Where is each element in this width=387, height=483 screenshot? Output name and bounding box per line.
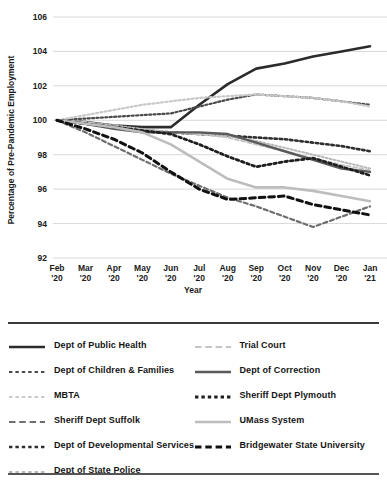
- legend-swatch-icon: [8, 414, 46, 426]
- svg-text:Aug: Aug: [219, 263, 236, 273]
- chart-legend: Dept of Public HealthDept of Children & …: [0, 322, 387, 483]
- legend-item-sheriff-dept-suffolk[interactable]: Sheriff Dept Suffolk: [8, 407, 194, 432]
- y-tick-92: 92: [38, 253, 48, 263]
- legend-swatch-icon: [194, 389, 232, 401]
- y-tick-96: 96: [38, 184, 48, 194]
- legend-swatch-icon: [8, 439, 46, 451]
- y-tick-104: 104: [33, 46, 47, 56]
- legend-item-label: Trial Court: [240, 340, 286, 350]
- y-axis-tick-labels: 92949698100102104106: [33, 12, 47, 263]
- svg-text:'20: '20: [108, 273, 120, 283]
- svg-text:'20: '20: [80, 273, 92, 283]
- svg-text:'20: '20: [51, 273, 63, 283]
- legend-swatch-icon: [194, 414, 232, 426]
- x-tick-7: Sep'20: [248, 263, 264, 283]
- x-tick-4: Jun'20: [163, 263, 178, 283]
- series-line-7: [57, 120, 370, 172]
- legend-bottom-divider: [8, 473, 379, 475]
- y-axis-title: Percentage of Pre-Pandemic Employment: [6, 56, 16, 225]
- svg-text:Nov: Nov: [305, 263, 321, 273]
- svg-text:'21: '21: [364, 273, 376, 283]
- legend-item-mbta[interactable]: MBTA: [8, 382, 194, 407]
- legend-item-dept-of-developmental-services[interactable]: Dept of Developmental Services: [8, 432, 194, 457]
- x-tick-1: Mar'20: [78, 263, 94, 283]
- x-tick-0: Feb'20: [49, 263, 64, 283]
- legend-item-dept-of-correction[interactable]: Dept of Correction: [194, 357, 380, 382]
- legend-item-label: Bridgewater State University: [240, 440, 365, 450]
- y-tick-100: 100: [33, 115, 47, 125]
- x-tick-9: Nov'20: [305, 263, 321, 283]
- svg-text:Jan: Jan: [363, 263, 378, 273]
- legend-item-sheriff-dept-plymouth[interactable]: Sheriff Dept Plymouth: [194, 382, 380, 407]
- legend-item-label: Sheriff Dept Plymouth: [240, 390, 337, 400]
- series-lines: [57, 46, 370, 227]
- svg-text:'20: '20: [336, 273, 348, 283]
- legend-column-right: Trial CourtDept of CorrectionSheriff Dep…: [194, 332, 380, 482]
- line-chart-svg: 92949698100102104106 Feb'20Mar'20Apr'20M…: [0, 0, 387, 300]
- x-axis-tick-labels: Feb'20Mar'20Apr'20May'20Jun'20Jul'20Aug'…: [49, 263, 377, 283]
- legend-item-label: MBTA: [54, 390, 80, 400]
- legend-swatch-icon: [194, 364, 232, 376]
- svg-text:'20: '20: [194, 273, 206, 283]
- legend-swatch-icon: [194, 439, 232, 451]
- legend-item-umass-system[interactable]: UMass System: [194, 407, 380, 432]
- legend-item-dept-of-children-families[interactable]: Dept of Children & Families: [8, 357, 194, 382]
- svg-text:Oct: Oct: [278, 263, 292, 273]
- svg-text:Apr: Apr: [107, 263, 122, 273]
- svg-text:Dec: Dec: [334, 263, 350, 273]
- legend-swatch-icon: [8, 339, 46, 351]
- legend-item-dept-of-public-health[interactable]: Dept of Public Health: [8, 332, 194, 357]
- x-tick-8: Oct'20: [278, 263, 292, 283]
- legend-item-label: Dept of Public Health: [54, 340, 147, 350]
- svg-text:Feb: Feb: [49, 263, 64, 273]
- svg-text:Sep: Sep: [248, 263, 264, 273]
- svg-text:Jul: Jul: [193, 263, 205, 273]
- svg-text:Mar: Mar: [78, 263, 94, 273]
- legend-item-label: Dept of Children & Families: [54, 365, 174, 375]
- series-line-0: [57, 46, 370, 127]
- y-tick-98: 98: [38, 150, 48, 160]
- legend-item-trial-court[interactable]: Trial Court: [194, 332, 380, 357]
- series-line-8: [57, 120, 370, 175]
- svg-text:'20: '20: [279, 273, 291, 283]
- legend-swatch-icon: [8, 364, 46, 376]
- svg-text:'20: '20: [250, 273, 262, 283]
- x-tick-2: Apr'20: [107, 263, 122, 283]
- x-tick-5: Jul'20: [193, 263, 205, 283]
- legend-item-label: UMass System: [240, 415, 305, 425]
- svg-text:Jun: Jun: [163, 263, 178, 273]
- legend-top-divider: [8, 322, 379, 324]
- svg-text:'20: '20: [165, 273, 177, 283]
- chart-root: 92949698100102104106 Feb'20Mar'20Apr'20M…: [0, 0, 387, 483]
- x-tick-11: Jan'21: [363, 263, 378, 283]
- legend-item-label: Sheriff Dept Suffolk: [54, 415, 140, 425]
- svg-text:'20: '20: [307, 273, 319, 283]
- y-tick-106: 106: [33, 12, 47, 22]
- x-tick-3: May'20: [134, 263, 151, 283]
- x-axis-title: Year: [184, 285, 203, 295]
- svg-text:May: May: [134, 263, 151, 273]
- x-tick-10: Dec'20: [334, 263, 350, 283]
- y-tick-94: 94: [38, 219, 48, 229]
- x-tick-6: Aug'20: [219, 263, 236, 283]
- plot-area: 92949698100102104106 Feb'20Mar'20Apr'20M…: [0, 0, 387, 300]
- legend-swatch-icon: [8, 389, 46, 401]
- legend-item-label: Dept of Correction: [240, 365, 321, 375]
- svg-text:'20: '20: [137, 273, 149, 283]
- legend-column-left: Dept of Public HealthDept of Children & …: [8, 332, 194, 482]
- y-tick-102: 102: [33, 81, 47, 91]
- series-line-2: [57, 94, 370, 120]
- legend-swatch-icon: [194, 339, 232, 351]
- legend-item-label: Dept of Developmental Services: [54, 440, 194, 450]
- legend-item-dept-of-state-police[interactable]: Dept of State Police: [8, 457, 194, 482]
- svg-text:'20: '20: [222, 273, 234, 283]
- legend-item-bridgewater-state-university[interactable]: Bridgewater State University: [194, 432, 380, 457]
